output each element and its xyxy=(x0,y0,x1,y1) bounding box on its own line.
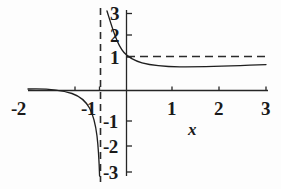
x-tick-label-1: 1 xyxy=(167,99,176,118)
x-tick-label--2: -2 xyxy=(11,99,26,118)
y-tick-label-1: 1 xyxy=(110,48,119,67)
y-axis xyxy=(127,10,133,176)
y-tick-label--1: -1 xyxy=(103,112,118,131)
x-tick-label--1: -1 xyxy=(81,99,96,118)
x-axis xyxy=(28,87,268,91)
curve-right-branch xyxy=(107,11,266,67)
y-tick-label-3: 3 xyxy=(110,4,119,23)
y-tick-label-2: 2 xyxy=(110,26,119,45)
x-axis-label: x xyxy=(188,121,197,138)
function-graph-figure: -2 -1 1 2 3 3 2 1 -1 -2 -3 x xyxy=(0,0,281,189)
y-tick-label--2: -2 xyxy=(103,137,118,156)
x-tick-label-3: 3 xyxy=(261,99,270,118)
y-tick-label--3: -3 xyxy=(103,163,118,182)
plot-canvas xyxy=(0,0,281,189)
x-tick-label-2: 2 xyxy=(214,99,223,118)
